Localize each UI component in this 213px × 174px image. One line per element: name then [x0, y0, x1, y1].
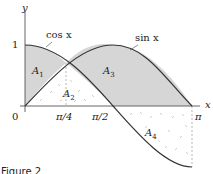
- figure-graph: [0, 0, 213, 174]
- x-tick-pi-over-4: π/4: [56, 112, 72, 122]
- region-a2-label: A2: [63, 89, 75, 102]
- sin-curve-label: sin x: [135, 33, 159, 43]
- cos-curve-label: cos x: [46, 30, 72, 40]
- x-tick-pi: π: [195, 112, 202, 122]
- sin-leader-line: [130, 45, 138, 50]
- y-tick-1: 1: [12, 40, 18, 50]
- origin-label: 0: [12, 112, 18, 122]
- region-a3-label: A3: [103, 66, 115, 79]
- x-axis-label: x: [205, 100, 211, 110]
- region-a4-label: A4: [145, 128, 157, 141]
- cos-leader-line: [46, 42, 52, 47]
- y-axis-label: y: [22, 3, 28, 13]
- region-a1-label: A1: [32, 66, 44, 79]
- figure-caption: Figure 2: [1, 166, 41, 174]
- x-tick-pi-over-2: π/2: [92, 112, 108, 122]
